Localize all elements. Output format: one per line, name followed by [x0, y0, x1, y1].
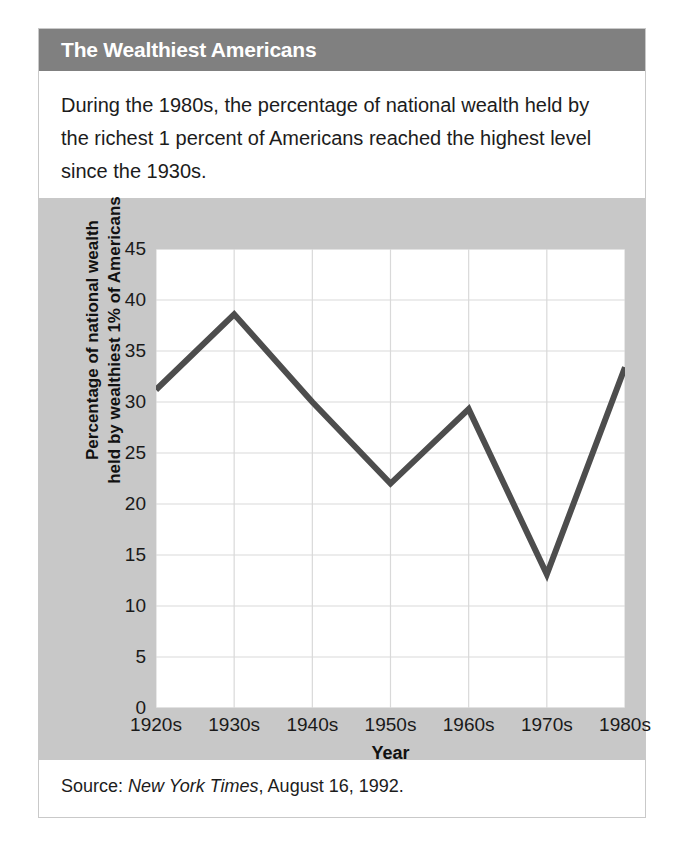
chart-panel: Percentage of national wealth held by we…	[39, 198, 645, 760]
y-axis-tick-25: 25	[100, 442, 146, 464]
source-note: Source: New York Times, August 16, 1992.	[61, 776, 404, 797]
source-block: Source: New York Times, August 16, 1992.	[39, 760, 645, 817]
caption-text: During the 1980s, the percentage of nati…	[61, 89, 613, 188]
x-axis-tick-1940s: 1940s	[286, 714, 338, 736]
x-axis-tick-1960s: 1960s	[443, 714, 495, 736]
y-axis-tick-45: 45	[100, 238, 146, 260]
page-title: The Wealthiest Americans	[61, 38, 316, 62]
y-axis-tick-35: 35	[100, 340, 146, 362]
figure-header-bar: The Wealthiest Americans	[39, 29, 645, 71]
x-axis-tick-1920s: 1920s	[130, 714, 182, 736]
caption-block: During the 1980s, the percentage of nati…	[39, 71, 645, 198]
plot-area	[156, 249, 625, 708]
y-axis-tick-5: 5	[100, 646, 146, 668]
y-axis-tick-40: 40	[100, 289, 146, 311]
x-axis-tick-1930s: 1930s	[208, 714, 260, 736]
source-prefix: Source:	[61, 776, 123, 796]
x-axis-tick-1980s: 1980s	[599, 714, 651, 736]
figure-container: The Wealthiest Americans During the 1980…	[38, 28, 646, 818]
x-axis-tick-1950s: 1950s	[365, 714, 417, 736]
source-publication: New York Times	[128, 776, 259, 796]
y-axis-tick-30: 30	[100, 391, 146, 413]
source-suffix: , August 16, 1992.	[259, 776, 404, 796]
y-axis-tick-15: 15	[100, 544, 146, 566]
y-axis-tick-10: 10	[100, 595, 146, 617]
x-axis-tick-1970s: 1970s	[521, 714, 573, 736]
y-axis-tick-20: 20	[100, 493, 146, 515]
data-series-line	[156, 249, 625, 708]
